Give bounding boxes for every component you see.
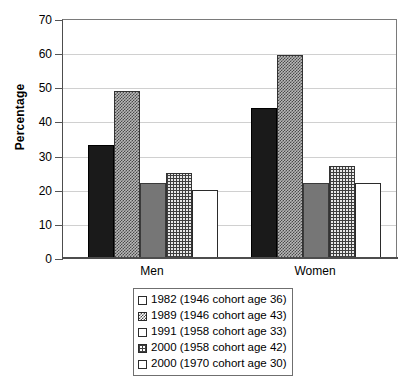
y-axis-tick xyxy=(55,191,63,192)
y-axis-tick-label: 10 xyxy=(39,219,52,231)
y-axis-tick xyxy=(55,225,63,226)
legend-swatch-icon xyxy=(138,296,147,305)
y-axis-tick-label: 30 xyxy=(39,151,52,163)
y-axis-tick-label: 20 xyxy=(39,185,52,197)
y-axis-tick xyxy=(55,88,63,89)
bar xyxy=(88,145,114,258)
legend-item[interactable]: 1991 (1958 cohort age 33) xyxy=(138,324,287,340)
chart-legend: 1982 (1946 cohort age 36)1989 (1946 coho… xyxy=(133,288,293,376)
legend-swatch-icon xyxy=(138,312,147,321)
legend-item-label: 1991 (1958 cohort age 33) xyxy=(151,326,287,338)
legend-swatch-icon xyxy=(138,344,147,353)
legend-item[interactable]: 2000 (1958 cohort age 42) xyxy=(138,340,287,356)
bar xyxy=(329,166,355,258)
legend-item-label: 1989 (1946 cohort age 43) xyxy=(151,310,287,322)
x-axis-group-label: Men xyxy=(87,264,217,278)
y-axis-title: Percentage xyxy=(13,62,27,172)
legend-item[interactable]: 1982 (1946 cohort age 36) xyxy=(138,292,287,308)
legend-item-label: 2000 (1958 cohort age 42) xyxy=(151,342,287,354)
bar xyxy=(140,183,166,258)
y-axis-tick xyxy=(55,157,63,158)
y-axis-tick xyxy=(55,54,63,55)
x-axis-line xyxy=(62,257,398,259)
bar-chart-figure: Percentage 706050403020100 MenWomen 1982… xyxy=(0,0,416,387)
y-axis-tick xyxy=(55,122,63,123)
legend-swatch-icon xyxy=(138,328,147,337)
legend-item[interactable]: 1989 (1946 cohort age 43) xyxy=(138,308,287,324)
y-axis-tick-label: 60 xyxy=(39,48,52,60)
legend-item-label: 2000 (1970 cohort age 30) xyxy=(151,358,287,370)
legend-item-label: 1982 (1946 cohort age 36) xyxy=(151,294,287,306)
bar xyxy=(277,55,303,258)
y-axis-tick-label: 40 xyxy=(39,116,52,128)
y-axis-tick-label: 70 xyxy=(39,14,52,26)
y-axis-tick xyxy=(55,259,63,260)
y-axis-tick-label: 50 xyxy=(39,82,52,94)
plot-area: 706050403020100 xyxy=(62,19,397,258)
gridline xyxy=(63,122,396,123)
bar xyxy=(303,183,329,258)
gridline xyxy=(63,88,396,89)
bar xyxy=(166,173,192,258)
bar xyxy=(355,183,381,258)
gridline xyxy=(63,54,396,55)
bar xyxy=(114,91,140,258)
legend-item[interactable]: 2000 (1970 cohort age 30) xyxy=(138,356,287,372)
y-axis-tick-label: 0 xyxy=(45,253,52,265)
y-axis-tick xyxy=(55,20,63,21)
legend-swatch-icon xyxy=(138,360,147,369)
bar xyxy=(192,190,218,258)
x-axis-group-label: Women xyxy=(250,264,380,278)
bar xyxy=(251,108,277,258)
